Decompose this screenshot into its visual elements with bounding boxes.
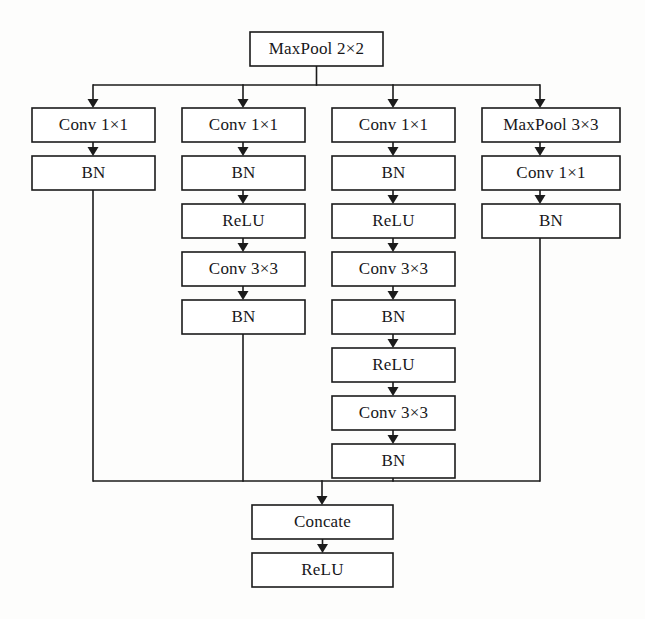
b4-n3-label: BN — [539, 211, 563, 230]
b3-n3-label: ReLU — [372, 211, 414, 230]
b2-n2-to-next-arrow-icon — [238, 195, 249, 204]
b3-n3-to-next-arrow-icon — [388, 243, 399, 252]
b3-n4[interactable]: Conv 3×3 — [332, 252, 455, 286]
b3-n4-to-next-arrow-icon — [388, 291, 399, 300]
b3-n6-label: ReLU — [372, 355, 414, 374]
relu-out-label: ReLU — [301, 560, 343, 579]
b3-n7[interactable]: Conv 3×3 — [332, 396, 455, 430]
module-flowchart: MaxPool 2×2Conv 1×1BNConv 1×1BNReLUConv … — [0, 0, 645, 619]
b3-n6-to-next-arrow-icon — [388, 387, 399, 396]
b2-n4-to-next-arrow-icon — [238, 291, 249, 300]
b2-n2-label: BN — [231, 163, 255, 182]
diagram-canvas: MaxPool 2×2Conv 1×1BNConv 1×1BNReLUConv … — [0, 0, 645, 619]
concate-entry-arrow-icon — [317, 496, 328, 505]
b4-n2-label: Conv 1×1 — [516, 163, 585, 182]
b4-n3[interactable]: BN — [482, 204, 620, 238]
b2-n3-label: ReLU — [222, 211, 264, 230]
b2-n4-label: Conv 3×3 — [209, 259, 278, 278]
b1-n1-to-next-arrow-icon — [88, 147, 99, 156]
b3-n5-to-next-arrow-icon — [388, 339, 399, 348]
b2-n3[interactable]: ReLU — [182, 204, 305, 238]
b3-n1[interactable]: Conv 1×1 — [332, 108, 455, 142]
b4-n2-to-next-arrow-icon — [535, 195, 546, 204]
branch-2-entry-arrow-icon — [238, 99, 249, 108]
b3-n5[interactable]: BN — [332, 300, 455, 334]
b3-n7-label: Conv 3×3 — [359, 403, 428, 422]
b1-n2-label: BN — [81, 163, 105, 182]
b2-n3-to-next-arrow-icon — [238, 243, 249, 252]
concate-to-next-arrow-icon — [317, 544, 328, 553]
b3-n7-to-next-arrow-icon — [388, 435, 399, 444]
relu-out[interactable]: ReLU — [252, 553, 393, 587]
b1-n1[interactable]: Conv 1×1 — [32, 108, 155, 142]
b4-n1-to-next-arrow-icon — [535, 147, 546, 156]
b2-n1-label: Conv 1×1 — [209, 115, 278, 134]
concate[interactable]: Concate — [252, 505, 393, 539]
b3-n2-to-next-arrow-icon — [388, 195, 399, 204]
b1-n2[interactable]: BN — [32, 156, 155, 190]
branch-1-entry-arrow-icon — [88, 99, 99, 108]
b4-n1[interactable]: MaxPool 3×3 — [482, 108, 620, 142]
b3-n2[interactable]: BN — [332, 156, 455, 190]
b3-n1-to-next-arrow-icon — [388, 147, 399, 156]
b3-n1-label: Conv 1×1 — [359, 115, 428, 134]
b4-n2[interactable]: Conv 1×1 — [482, 156, 620, 190]
input[interactable]: MaxPool 2×2 — [250, 32, 383, 66]
branch-4-entry-arrow-icon — [535, 99, 546, 108]
input-label: MaxPool 2×2 — [269, 39, 364, 58]
b2-n5[interactable]: BN — [182, 300, 305, 334]
b2-n1-to-next-arrow-icon — [238, 147, 249, 156]
b3-n3[interactable]: ReLU — [332, 204, 455, 238]
b4-n1-label: MaxPool 3×3 — [503, 115, 598, 134]
b2-n4[interactable]: Conv 3×3 — [182, 252, 305, 286]
b3-n5-label: BN — [381, 307, 405, 326]
b3-n4-label: Conv 3×3 — [359, 259, 428, 278]
b2-n2[interactable]: BN — [182, 156, 305, 190]
b3-n2-label: BN — [381, 163, 405, 182]
branch-3-entry-arrow-icon — [388, 99, 399, 108]
nodes-layer: MaxPool 2×2Conv 1×1BNConv 1×1BNReLUConv … — [32, 32, 620, 587]
b3-n6[interactable]: ReLU — [332, 348, 455, 382]
b3-n8-label: BN — [381, 451, 405, 470]
b2-n1[interactable]: Conv 1×1 — [182, 108, 305, 142]
edges-layer — [88, 66, 546, 553]
concate-label: Concate — [294, 512, 351, 531]
b1-n1-label: Conv 1×1 — [59, 115, 128, 134]
b2-n5-label: BN — [231, 307, 255, 326]
b3-n8[interactable]: BN — [332, 444, 455, 478]
